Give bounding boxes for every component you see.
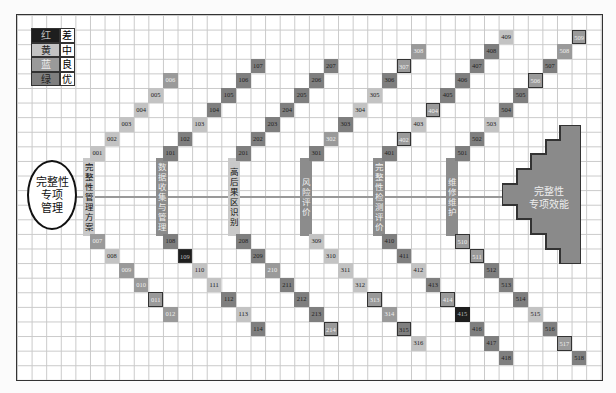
- stage-bar-char: 完: [85, 162, 94, 172]
- status-cell: 505: [513, 88, 528, 103]
- stage-bar-char: 收: [158, 182, 167, 192]
- start-node-line: 专项: [41, 189, 63, 202]
- stage-bar: 风险评价: [300, 158, 312, 236]
- status-cell: 416: [470, 322, 485, 337]
- legend: 红 差 黄 中 蓝 良 绿 优: [31, 28, 75, 86]
- status-cell: 307: [397, 59, 412, 74]
- status-cell: 104: [207, 103, 222, 118]
- status-cell: 003: [119, 117, 134, 132]
- stage-bar-char: 与: [158, 202, 167, 212]
- status-cell: 504: [499, 103, 514, 118]
- stage-bar-char: 集: [158, 192, 167, 202]
- legend-meaning: 优: [60, 72, 75, 87]
- legend-meaning: 差: [60, 28, 75, 43]
- status-cell: 211: [280, 278, 295, 293]
- status-cell: 001: [90, 146, 105, 161]
- end-node-label: 完整性 专项效能: [520, 185, 578, 211]
- stage-bar-char: 测: [375, 202, 384, 212]
- status-cell: 315: [397, 322, 412, 337]
- status-cell: 006: [163, 73, 178, 88]
- status-cell: 310: [324, 249, 339, 264]
- status-cell: 114: [251, 322, 266, 337]
- status-cell: 201: [236, 146, 251, 161]
- status-cell: 103: [192, 117, 207, 132]
- status-cell: 503: [484, 117, 499, 132]
- stage-bar: 数据收集与管理: [156, 158, 168, 236]
- legend-color-swatch: 黄: [31, 43, 60, 58]
- status-cell: 409: [499, 30, 514, 45]
- status-cell: 415: [455, 307, 470, 322]
- status-cell: 406: [455, 73, 470, 88]
- status-cell: 413: [426, 278, 441, 293]
- status-cell: 107: [251, 59, 266, 74]
- legend-row-bad: 红 差: [31, 28, 75, 43]
- status-cell: 518: [572, 351, 587, 366]
- stage-bar-char: 险: [302, 187, 311, 197]
- stage-bar-char: 价: [375, 222, 384, 232]
- status-cell: 515: [528, 307, 543, 322]
- status-cell: 309: [309, 234, 324, 249]
- status-cell: 502: [470, 132, 485, 147]
- status-cell: 005: [148, 88, 163, 103]
- stage-bar-char: 高: [230, 167, 239, 177]
- stage-bar-char: 护: [448, 207, 457, 217]
- stage-bar-char: 评: [302, 197, 311, 207]
- status-cell: 306: [382, 73, 397, 88]
- status-cell: 412: [411, 263, 426, 278]
- status-cell: 209: [251, 249, 266, 264]
- status-cell: 312: [353, 278, 368, 293]
- status-cell: 304: [353, 103, 368, 118]
- legend-row-good: 蓝 良: [31, 57, 75, 72]
- legend-color-swatch: 蓝: [31, 57, 60, 72]
- status-cell: 512: [484, 263, 499, 278]
- stage-bar-char: 维: [448, 197, 457, 207]
- status-cell: 108: [163, 234, 178, 249]
- status-cell: 407: [470, 59, 485, 74]
- status-cell: 011: [148, 292, 163, 307]
- status-cell: 109: [178, 249, 193, 264]
- status-cell: 508: [557, 44, 572, 59]
- stage-bar-char: 管: [85, 192, 94, 202]
- status-cell: 009: [119, 263, 134, 278]
- status-cell: 208: [236, 234, 251, 249]
- legend-meaning: 中: [60, 43, 75, 58]
- status-cell: 105: [221, 88, 236, 103]
- status-cell: 202: [251, 132, 266, 147]
- status-cell: 506: [528, 73, 543, 88]
- stage-bar-char: 后: [230, 177, 239, 187]
- legend-row-excellent: 绿 优: [31, 72, 75, 87]
- status-cell: 102: [178, 132, 193, 147]
- status-cell: 516: [543, 322, 558, 337]
- stage-bar-char: 方: [85, 212, 94, 222]
- status-cell: 012: [163, 307, 178, 322]
- stage-bar: 完整性管理方案: [83, 158, 95, 236]
- status-cell: 403: [411, 117, 426, 132]
- status-cell: 305: [367, 88, 382, 103]
- status-cell: 204: [280, 103, 295, 118]
- status-cell: 212: [294, 292, 309, 307]
- legend-color-swatch: 绿: [31, 72, 60, 87]
- status-cell: 405: [440, 88, 455, 103]
- status-cell: 004: [134, 103, 149, 118]
- stage-bar: 高后果区识别: [228, 158, 240, 236]
- stage-bar-char: 价: [302, 207, 311, 217]
- status-cell: 206: [309, 73, 324, 88]
- start-node-oval: 完整性 专项 管理: [27, 160, 77, 230]
- status-cell: 113: [236, 307, 251, 322]
- stage-bar-char: 果: [230, 187, 239, 197]
- status-cell: 402: [397, 132, 412, 147]
- status-cell: 112: [221, 292, 236, 307]
- stage-bar-char: 数: [158, 162, 167, 172]
- status-cell: 301: [309, 146, 324, 161]
- status-cell: 213: [309, 307, 324, 322]
- stage-bar-char: 案: [85, 222, 94, 232]
- status-cell: 517: [557, 336, 572, 351]
- status-cell: 313: [367, 292, 382, 307]
- status-cell: 514: [513, 292, 528, 307]
- status-cell: 510: [455, 234, 470, 249]
- status-cell: 408: [484, 44, 499, 59]
- stage-bar-char: 理: [85, 202, 94, 212]
- status-cell: 410: [382, 234, 397, 249]
- status-cell: 507: [543, 59, 558, 74]
- status-cell: 110: [192, 263, 207, 278]
